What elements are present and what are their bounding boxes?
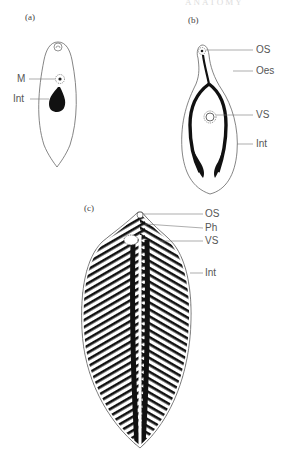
label-b-oesophagus: Oes — [256, 66, 274, 76]
label-b-ventral-sucker: VS — [256, 110, 269, 120]
label-b-oral-sucker: OS — [256, 45, 270, 55]
label-a-intestine: Int — [13, 94, 24, 104]
label-c-oral-sucker: OS — [205, 209, 219, 219]
diagram-canvas — [0, 0, 285, 465]
label-c-intestine: Int — [205, 268, 216, 278]
label-b-intestine: Int — [256, 139, 267, 149]
figure-a-body — [29, 42, 76, 167]
figure-b-body — [182, 45, 253, 194]
label-a-mouth: M — [17, 74, 25, 84]
label-c-ventral-sucker: VS — [205, 236, 218, 246]
figure-c-body — [70, 205, 203, 455]
label-c-pharynx: Ph — [205, 223, 217, 233]
